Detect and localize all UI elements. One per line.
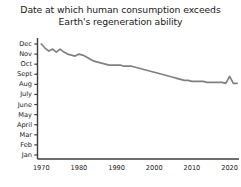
x-axis-tick-label: 1980 xyxy=(71,164,88,172)
y-axis-tick-label: Sept xyxy=(0,70,32,78)
y-axis-tick-label: Aug xyxy=(0,80,32,88)
y-axis-tick-label: Dec xyxy=(0,40,32,48)
plot-area xyxy=(0,0,241,187)
y-axis-tick-label: June xyxy=(0,101,32,109)
x-axis-tick-label: 2020 xyxy=(221,164,238,172)
y-axis-tick-label: Nov xyxy=(0,50,32,58)
y-axis-tick-label: Oct xyxy=(0,60,32,68)
y-axis-tick-label: April xyxy=(0,121,32,129)
x-axis-tick-label: 1990 xyxy=(108,164,125,172)
chart-container: Date at which human consumption exceeds … xyxy=(0,0,241,187)
y-axis-tick-label: July xyxy=(0,90,32,98)
x-axis-tick-label: 2010 xyxy=(184,164,201,172)
y-axis-tick-label: Jan xyxy=(0,151,32,159)
data-series-line xyxy=(41,44,237,83)
x-axis-tick-label: 1970 xyxy=(33,164,50,172)
axes xyxy=(38,38,240,159)
x-axis-tick-label: 2000 xyxy=(146,164,163,172)
y-axis-tick-label: Mar xyxy=(0,131,32,139)
y-axis-tick-label: May xyxy=(0,111,32,119)
y-axis-tick-label: Feb xyxy=(0,141,32,149)
